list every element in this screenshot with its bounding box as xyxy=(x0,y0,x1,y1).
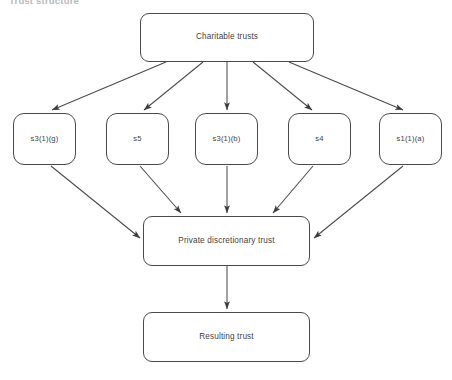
node-label-s3-1-b: s3(1)(b) xyxy=(209,134,245,143)
edge-charitable-to-s5 xyxy=(144,62,203,110)
node-label-private-discretionary-trust: Private discretionary trust xyxy=(174,236,278,246)
node-s5[interactable]: s5 xyxy=(106,113,169,165)
node-label-s4: s4 xyxy=(311,134,327,143)
node-s1-1-a[interactable]: s1(1)(a) xyxy=(379,113,442,165)
node-resulting-trust[interactable]: Resulting trust xyxy=(143,312,310,362)
node-s4[interactable]: s4 xyxy=(288,113,351,165)
node-label-charitable-trusts: Charitable trusts xyxy=(192,32,262,42)
edge-s1-1-a-to-private xyxy=(314,166,403,238)
node-s3-1-g[interactable]: s3(1)(g) xyxy=(13,113,76,165)
node-s3-1-b[interactable]: s3(1)(b) xyxy=(195,113,258,165)
node-label-s3-1-g: s3(1)(g) xyxy=(27,134,63,143)
edge-s3-1-g-to-private xyxy=(51,166,140,238)
edge-charitable-to-s3-1-g xyxy=(52,62,166,110)
trust-structure-diagram: Trust structure Charitable trusts s3(1)(… xyxy=(0,0,452,380)
edge-s4-to-private xyxy=(273,166,313,213)
node-label-s1-1-a: s1(1)(a) xyxy=(393,134,429,143)
node-charitable-trusts[interactable]: Charitable trusts xyxy=(140,13,314,62)
node-label-resulting-trust: Resulting trust xyxy=(195,332,258,342)
edge-charitable-to-s1-1-a xyxy=(289,62,403,110)
edge-s5-to-private xyxy=(140,166,181,213)
node-private-discretionary-trust[interactable]: Private discretionary trust xyxy=(143,216,310,266)
edge-charitable-to-s4 xyxy=(253,62,312,110)
node-label-s5: s5 xyxy=(129,134,145,143)
